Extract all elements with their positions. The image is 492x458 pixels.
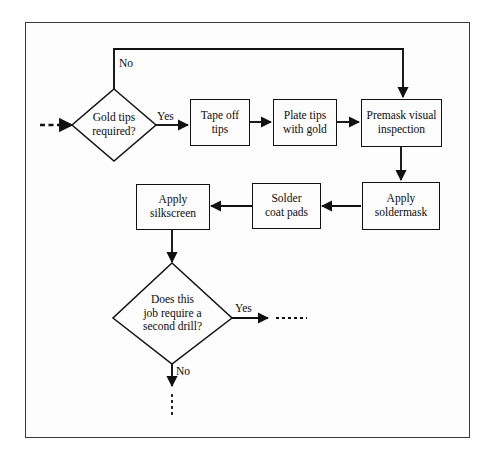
edge-label-gold-tips-no: No — [119, 58, 133, 70]
edge-label-second-drill-no: No — [176, 366, 190, 378]
premask-visual-inspection-label: Premask visualinspection — [367, 109, 437, 136]
solder-coat-pads-label: Soldercoat pads — [265, 192, 308, 219]
premask-visual-inspection-box[interactable]: Premask visualinspection — [361, 99, 442, 147]
edge-label-gold-tips-yes: Yes — [157, 111, 174, 123]
diagram-frame — [25, 22, 470, 438]
flowchart-canvas: Gold tipsrequired? Tape offtips Plate ti… — [0, 0, 492, 458]
plate-tips-with-gold-label: Plate tipswith gold — [283, 109, 327, 136]
tape-off-tips-box[interactable]: Tape offtips — [190, 99, 250, 146]
plate-tips-with-gold-box[interactable]: Plate tipswith gold — [273, 99, 337, 146]
apply-silkscreen-label: Applysilkscreen — [150, 193, 196, 220]
apply-silkscreen-box[interactable]: Applysilkscreen — [136, 184, 210, 230]
second-drill-decision[interactable]: Does thisjob require asecond drill? — [113, 263, 232, 364]
tape-off-tips-label: Tape offtips — [201, 109, 239, 136]
edge-label-second-drill-yes: Yes — [235, 303, 252, 315]
gold-tips-decision-label: Gold tipsrequired? — [92, 111, 135, 138]
gold-tips-decision[interactable]: Gold tipsrequired? — [72, 89, 156, 161]
second-drill-decision-label: Does thisjob require asecond drill? — [143, 293, 202, 334]
apply-soldermask-label: Applysoldermask — [375, 192, 427, 219]
solder-coat-pads-box[interactable]: Soldercoat pads — [252, 183, 321, 229]
apply-soldermask-box[interactable]: Applysoldermask — [362, 182, 440, 230]
